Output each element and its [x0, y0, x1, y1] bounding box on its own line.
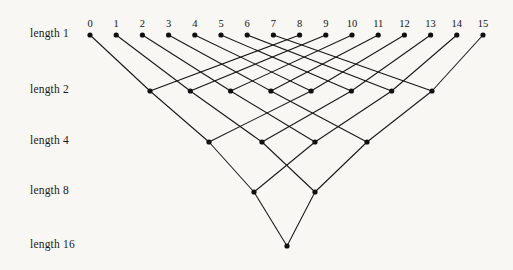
network-node — [251, 189, 256, 194]
network-edge — [209, 142, 254, 192]
column-label-9: 9 — [316, 18, 336, 29]
row-label-length-8: length 8 — [30, 184, 69, 196]
network-node — [245, 32, 250, 37]
network-edge — [392, 35, 457, 91]
network-node — [268, 88, 273, 93]
network-node — [389, 88, 394, 93]
network-edge — [169, 35, 271, 91]
network-node — [147, 88, 152, 93]
network-edge — [116, 35, 190, 91]
network-node — [87, 32, 92, 37]
column-label-14: 14 — [447, 18, 467, 29]
network-node — [349, 88, 354, 93]
network-node — [271, 32, 276, 37]
column-label-3: 3 — [159, 18, 179, 29]
network-node — [218, 32, 223, 37]
network-edge — [262, 91, 351, 142]
network-node — [402, 32, 407, 37]
network-node — [454, 32, 459, 37]
network-node — [297, 32, 302, 37]
row-label-length-1: length 1 — [30, 27, 69, 39]
network-edge — [209, 91, 311, 142]
network-edge — [254, 192, 287, 246]
column-label-0: 0 — [80, 18, 100, 29]
column-label-11: 11 — [368, 18, 388, 29]
network-edge — [190, 35, 325, 91]
network-node — [323, 32, 328, 37]
network-node — [206, 139, 211, 144]
column-label-15: 15 — [473, 18, 493, 29]
row-label-length-4: length 4 — [30, 134, 69, 146]
network-node — [428, 32, 433, 37]
network-edge — [254, 142, 315, 192]
network-edge — [150, 35, 300, 91]
column-label-8: 8 — [290, 18, 310, 29]
network-node — [480, 32, 485, 37]
network-node — [364, 139, 369, 144]
network-edge — [90, 35, 150, 91]
network-node — [259, 139, 264, 144]
column-label-12: 12 — [394, 18, 414, 29]
network-node — [188, 88, 193, 93]
row-label-length-16: length 16 — [30, 238, 75, 250]
column-label-7: 7 — [263, 18, 283, 29]
network-node — [349, 32, 354, 37]
network-node — [140, 32, 145, 37]
network-edge — [195, 35, 311, 91]
column-label-13: 13 — [421, 18, 441, 29]
network-node — [309, 88, 314, 93]
network-node — [284, 243, 289, 248]
network-edge — [231, 35, 352, 91]
network-edge — [190, 91, 262, 142]
network-node — [312, 139, 317, 144]
row-label-length-2: length 2 — [30, 83, 69, 95]
network-node — [228, 88, 233, 93]
column-label-10: 10 — [342, 18, 362, 29]
network-node — [312, 189, 317, 194]
network-edge — [231, 91, 315, 142]
column-label-4: 4 — [185, 18, 205, 29]
network-node — [192, 32, 197, 37]
column-label-2: 2 — [132, 18, 152, 29]
column-label-5: 5 — [211, 18, 231, 29]
network-edge — [142, 35, 230, 91]
network-edge — [273, 35, 432, 91]
network-edge — [315, 142, 367, 192]
column-label-6: 6 — [237, 18, 257, 29]
network-edge — [432, 35, 483, 91]
butterfly-network-figure: length 1length 2length 4length 8length 1… — [0, 0, 513, 270]
network-graph — [0, 0, 513, 270]
network-edge — [262, 142, 315, 192]
network-edge — [367, 91, 432, 142]
network-edge — [287, 192, 315, 246]
network-node — [376, 32, 381, 37]
network-node — [429, 88, 434, 93]
network-node — [114, 32, 119, 37]
network-node — [166, 32, 171, 37]
network-edge — [247, 35, 392, 91]
column-label-1: 1 — [106, 18, 126, 29]
